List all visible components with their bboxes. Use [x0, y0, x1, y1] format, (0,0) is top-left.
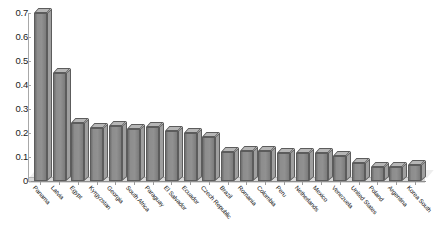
bar-side-face	[122, 121, 127, 181]
bar-front-face	[333, 156, 346, 181]
bar-front-face	[90, 128, 103, 181]
bar-column	[165, 131, 178, 181]
bar-column	[240, 151, 253, 181]
bar-front-face	[352, 163, 365, 181]
bar-column	[352, 163, 365, 181]
x-axis-tick-mark	[396, 182, 397, 185]
bar-side-face	[47, 8, 52, 181]
bar-side-face	[309, 149, 314, 181]
bar-column	[109, 126, 122, 181]
bar-column	[333, 156, 346, 181]
bar-side-face	[253, 146, 258, 181]
y-axis-tick-mark	[28, 13, 31, 14]
bar-side-face	[346, 151, 351, 181]
x-axis-tick-mark	[359, 182, 360, 185]
y-axis-tick-mark	[28, 61, 31, 62]
x-axis-tick-mark	[40, 182, 41, 185]
bar-column	[315, 153, 328, 181]
x-axis-tick-mark	[284, 182, 285, 185]
x-axis-tick-mark	[302, 182, 303, 185]
bar-front-face	[221, 152, 234, 181]
bar-column	[53, 73, 66, 181]
bar-side-face	[159, 122, 164, 181]
x-axis-tick-mark	[228, 182, 229, 185]
bar-column	[221, 152, 234, 181]
bar-front-face	[202, 137, 215, 181]
bar-column	[184, 133, 197, 181]
bar-column	[146, 127, 159, 181]
x-axis-tick-mark	[190, 182, 191, 185]
y-axis-tick-mark	[28, 37, 31, 38]
bar-side-face	[290, 149, 295, 181]
bar-front-face	[71, 123, 84, 181]
bar-side-face	[66, 68, 71, 181]
bar-side-face	[178, 126, 183, 181]
y-axis-tick-mark	[28, 157, 31, 158]
bar-side-face	[215, 132, 220, 181]
bar-front-face	[277, 153, 290, 181]
x-axis-tick-mark	[153, 182, 154, 185]
x-axis-tick-mark	[377, 182, 378, 185]
x-axis-tick-mark	[59, 182, 60, 185]
x-axis-tick-mark	[134, 182, 135, 185]
y-axis-tick-mark	[28, 109, 31, 110]
x-axis-tick-mark	[78, 182, 79, 185]
bar-side-face	[328, 149, 333, 181]
bar-front-face	[34, 13, 47, 181]
bar-side-face	[140, 125, 145, 181]
bar-front-face	[389, 167, 402, 181]
bar-column	[258, 151, 271, 181]
bar-column	[389, 167, 402, 181]
bar-front-face	[165, 131, 178, 181]
bar-front-face	[296, 153, 309, 181]
bar-column	[277, 153, 290, 181]
y-axis-tick-mark	[28, 133, 31, 134]
bar-side-face	[234, 148, 239, 181]
x-axis-tick-mark	[209, 182, 210, 185]
x-axis-tick-mark	[246, 182, 247, 185]
bar-column	[296, 153, 309, 181]
bar-column	[127, 129, 140, 181]
bar-side-face	[271, 146, 276, 181]
bar-front-face	[371, 167, 384, 181]
x-axis-tick-mark	[115, 182, 116, 185]
x-axis-tick-mark	[97, 182, 98, 185]
bar-front-face	[240, 151, 253, 181]
bar-column	[34, 13, 47, 181]
bar-front-face	[53, 73, 66, 181]
x-axis-tick-mark	[171, 182, 172, 185]
x-axis-tick-mark	[340, 182, 341, 185]
bar-column	[408, 165, 421, 181]
bar-front-face	[408, 165, 421, 181]
bar-side-face	[103, 124, 108, 181]
y-axis-tick-mark	[28, 181, 31, 182]
bar-column	[90, 128, 103, 181]
x-axis-tick-mark	[415, 182, 416, 185]
bar-front-face	[184, 133, 197, 181]
bar-column	[202, 137, 215, 181]
bar-column	[71, 123, 84, 181]
bar-front-face	[315, 153, 328, 181]
bar-front-face	[109, 126, 122, 181]
bar-front-face	[146, 127, 159, 181]
x-axis-tick-mark	[321, 182, 322, 185]
x-axis-tick-mark	[265, 182, 266, 185]
bar-front-face	[258, 151, 271, 181]
bar-column	[371, 167, 384, 181]
bar-front-face	[127, 129, 140, 181]
y-axis-tick-mark	[28, 85, 31, 86]
bar-side-face	[84, 119, 89, 181]
